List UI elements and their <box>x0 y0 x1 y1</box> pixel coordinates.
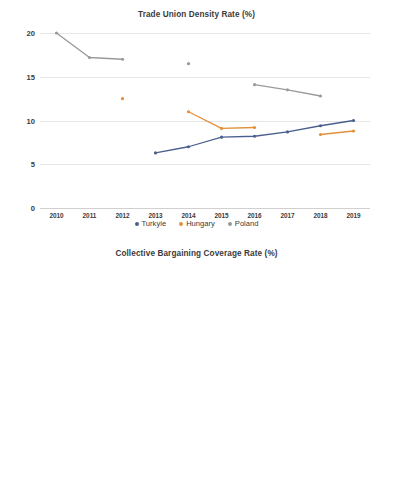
data-point-turkyie <box>286 130 289 133</box>
chart-title-top: Trade Union Density Rate (%) <box>0 10 393 19</box>
diamond-marker-icon <box>135 222 139 226</box>
x-axis-line <box>40 208 370 209</box>
chart-page: Trade Union Density Rate (%) 20151050 20… <box>0 0 393 482</box>
legend-label: Poland <box>235 220 259 228</box>
chart-title-bottom: Collective Bargaining Coverage Rate (%) <box>0 249 393 258</box>
data-point-hungary <box>187 110 190 113</box>
legend-item-poland[interactable]: Poland <box>228 220 259 228</box>
data-point-poland <box>187 62 190 65</box>
data-point-hungary <box>253 126 256 129</box>
data-point-turkyie <box>220 136 223 139</box>
diamond-marker-icon <box>179 222 183 226</box>
data-point-hungary <box>319 133 322 136</box>
data-point-poland <box>319 94 322 97</box>
series-layer-top <box>40 33 370 208</box>
chart-trade-union-density: Trade Union Density Rate (%) 20151050 20… <box>0 0 393 240</box>
series-line-poland <box>57 33 123 59</box>
x-axis-tick-label: 2013 <box>148 212 162 219</box>
x-axis-tick-label: 2016 <box>247 212 261 219</box>
data-point-poland <box>55 31 58 34</box>
x-axis-tick-label: 2018 <box>313 212 327 219</box>
x-axis-tick-label: 2012 <box>115 212 129 219</box>
x-axis-tick-label: 2017 <box>280 212 294 219</box>
data-point-turkyie <box>319 124 322 127</box>
plot-area-top: 20151050 2010201120122013201420152016201… <box>40 33 370 208</box>
data-point-turkyie <box>154 151 157 154</box>
data-point-poland <box>286 88 289 91</box>
data-point-turkyie <box>253 135 256 138</box>
y-axis-tick-label: 0 <box>31 204 40 213</box>
data-point-turkyie <box>187 145 190 148</box>
x-axis-tick-label: 2011 <box>83 212 97 219</box>
legend-item-turkyie[interactable]: Turkyie <box>135 220 167 228</box>
data-point-poland <box>121 58 124 61</box>
x-axis-tick-label: 2019 <box>346 212 360 219</box>
y-axis-tick-label: 10 <box>27 116 40 125</box>
diamond-marker-icon <box>228 222 232 226</box>
data-point-turkyie <box>352 119 355 122</box>
legend-label: Hungary <box>186 220 215 228</box>
series-line-hungary <box>189 112 255 129</box>
y-axis-tick-label: 20 <box>27 29 40 38</box>
y-axis-tick-label: 5 <box>31 160 40 169</box>
chart-collective-bargaining-coverage: Collective Bargaining Coverage Rate (%) … <box>0 240 393 482</box>
data-point-hungary <box>352 129 355 132</box>
legend-item-hungary[interactable]: Hungary <box>179 220 215 228</box>
legend-top: TurkyieHungaryPoland <box>0 220 393 228</box>
data-point-poland <box>88 56 91 59</box>
legend-label: Turkyie <box>142 220 167 228</box>
data-point-poland <box>253 83 256 86</box>
x-axis-tick-label: 2014 <box>181 212 195 219</box>
y-axis-tick-label: 15 <box>27 72 40 81</box>
series-line-hungary <box>321 131 354 135</box>
data-point-hungary <box>121 97 124 100</box>
data-point-hungary <box>220 127 223 130</box>
x-axis-tick-label: 2010 <box>49 212 63 219</box>
x-axis-tick-label: 2015 <box>214 212 228 219</box>
